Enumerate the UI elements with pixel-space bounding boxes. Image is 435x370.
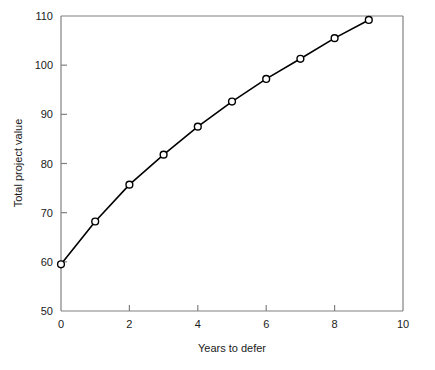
data-point <box>160 151 167 158</box>
line-chart: 5060708090100110 0246810 Total project v… <box>0 0 435 370</box>
data-point-markers <box>58 17 373 268</box>
y-axis-ticks <box>61 65 67 262</box>
data-point <box>331 35 338 42</box>
y-tick-label: 80 <box>41 158 53 170</box>
x-tick-label: 8 <box>332 318 338 330</box>
x-tick-label: 10 <box>397 318 409 330</box>
data-series-line <box>61 20 369 264</box>
x-axis-ticks <box>129 305 334 311</box>
y-axis-title: Total project value <box>12 119 24 208</box>
data-point <box>297 55 304 62</box>
chart-container: 5060708090100110 0246810 Total project v… <box>0 0 435 370</box>
x-tick-label: 0 <box>58 318 64 330</box>
y-tick-label: 50 <box>41 305 53 317</box>
y-tick-label: 110 <box>35 10 53 22</box>
data-point <box>58 261 65 268</box>
plot-frame <box>61 16 403 311</box>
data-point <box>365 17 372 24</box>
data-point <box>229 98 236 105</box>
data-point <box>194 123 201 130</box>
y-tick-label: 90 <box>41 108 53 120</box>
y-axis-tick-labels: 5060708090100110 <box>35 10 53 317</box>
y-tick-label: 70 <box>41 207 53 219</box>
data-point <box>263 76 270 83</box>
x-tick-label: 4 <box>195 318 201 330</box>
x-axis-tick-labels: 0246810 <box>58 318 409 330</box>
y-tick-label: 60 <box>41 256 53 268</box>
x-tick-label: 2 <box>126 318 132 330</box>
data-point <box>126 181 133 188</box>
y-tick-label: 100 <box>35 59 53 71</box>
data-point <box>92 218 99 225</box>
x-tick-label: 6 <box>263 318 269 330</box>
x-axis-title: Years to defer <box>198 342 266 354</box>
